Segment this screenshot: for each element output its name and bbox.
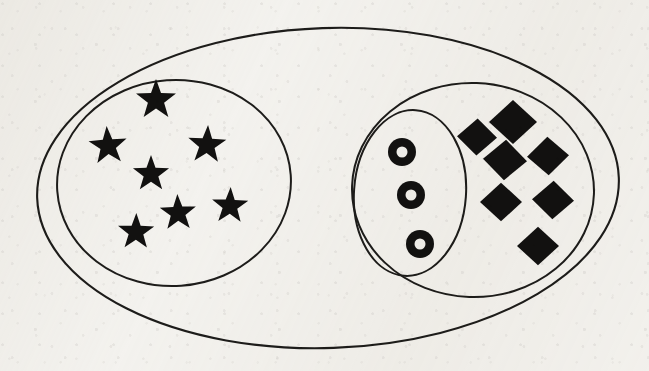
- ring-group: [388, 138, 434, 258]
- diamond-icon[interactable]: [526, 136, 569, 176]
- diamond-icon[interactable]: [517, 227, 559, 266]
- star-icon[interactable]: [88, 125, 128, 164]
- ring-icon[interactable]: [388, 138, 416, 166]
- set-diagram-svg: [0, 0, 649, 371]
- diamond-icon[interactable]: [531, 180, 574, 220]
- set-diagram-canvas: [0, 0, 649, 371]
- ring-hole: [406, 190, 417, 201]
- star-group: [88, 79, 249, 248]
- star-icon[interactable]: [118, 213, 155, 248]
- star-icon[interactable]: [159, 193, 196, 229]
- star-icon[interactable]: [187, 124, 227, 162]
- star-icon[interactable]: [211, 186, 248, 222]
- diamond-icon[interactable]: [480, 183, 522, 222]
- star-icon[interactable]: [133, 155, 169, 189]
- ring-icon[interactable]: [397, 181, 425, 209]
- outer-ellipse[interactable]: [32, 18, 625, 358]
- left-ellipse[interactable]: [50, 72, 298, 294]
- ring-icon[interactable]: [406, 230, 434, 258]
- ring-hole: [415, 239, 426, 250]
- diamond-group: [456, 100, 574, 265]
- ring-hole: [397, 147, 408, 158]
- diamond-icon[interactable]: [482, 139, 528, 182]
